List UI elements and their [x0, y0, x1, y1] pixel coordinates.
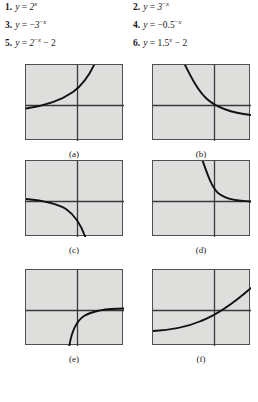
- exercise-lhs: y: [15, 38, 19, 48]
- graph-plot-c: [25, 160, 123, 236]
- exercise-number: 1.: [5, 2, 12, 12]
- graph-svg-b: [153, 65, 251, 141]
- figure-label-f: (f): [152, 354, 250, 365]
- exercise-expression: y = 2−x − 2: [15, 38, 56, 48]
- exercise-expression: y = 2x: [15, 2, 37, 12]
- exercise-lhs: y: [15, 2, 19, 12]
- exercise-equals: =: [150, 2, 155, 12]
- figure-label-a: (a): [25, 149, 123, 160]
- exercise-equals: =: [150, 20, 155, 30]
- exercise-rhs: 2x: [29, 2, 37, 12]
- graph-svg-c: [26, 161, 124, 237]
- graph-svg-a: [26, 65, 124, 141]
- graph-plot-f: [152, 269, 250, 345]
- figure-f: (f): [152, 269, 250, 365]
- exercise-number: 5.: [5, 38, 12, 48]
- exercise-item-5: 5.y = 2−x − 2: [5, 37, 56, 49]
- exercise-rhs: −3−x: [29, 20, 46, 30]
- graph-plot-d: [152, 160, 250, 236]
- exercise-rhs: 3−x: [157, 2, 168, 12]
- figure-c: (c): [25, 160, 123, 256]
- function-curve: [26, 65, 95, 109]
- exercise-lhs: y: [15, 20, 19, 30]
- graph-plot-e: [25, 269, 123, 345]
- figure-d: (d): [152, 160, 250, 256]
- figure-label-b: (b): [152, 149, 250, 160]
- exercise-expression: y = −0.5−x: [143, 20, 181, 30]
- exercise-lhs: y: [143, 20, 147, 30]
- function-curve: [184, 65, 251, 115]
- exercise-equals: =: [22, 2, 27, 12]
- exercise-item-1: 1.y = 2x: [5, 1, 37, 13]
- exercise-equals: =: [22, 20, 27, 30]
- exercise-rhs: 1.5x − 2: [157, 38, 187, 48]
- figure-label-d: (d): [152, 245, 250, 256]
- figure-b: (b): [152, 64, 250, 160]
- exercise-number: 2.: [133, 2, 140, 12]
- exercise-item-6: 6.y = 1.5x − 2: [133, 37, 187, 49]
- exercise-number: 6.: [133, 38, 140, 48]
- graph-plot-a: [25, 64, 123, 140]
- exercise-lhs: y: [143, 2, 147, 12]
- graph-plot-b: [152, 64, 250, 140]
- exercise-lhs: y: [143, 38, 147, 48]
- exercise-item-3: 3.y = −3−x: [5, 19, 46, 31]
- exercise-equals: =: [22, 38, 27, 48]
- exercise-item-2: 2.y = 3−x: [133, 1, 169, 13]
- exercise-row: 3.y = −3−x 4.y = −0.5−x: [0, 19, 258, 37]
- graph-svg-d: [153, 161, 251, 237]
- exercise-expression: y = 3−x: [143, 2, 169, 12]
- graph-svg-e: [26, 270, 124, 346]
- exercise-equals: =: [150, 38, 155, 48]
- exercise-number: 4.: [133, 20, 140, 30]
- exercise-number: 3.: [5, 20, 12, 30]
- figure-label-e: (e): [25, 354, 123, 365]
- exercise-list: 1.y = 2x 2.y = 3−x 3.y = −3−x 4.y = −0.5…: [0, 0, 258, 56]
- figure-e: (e): [25, 269, 123, 365]
- exercise-expression: y = 1.5x − 2: [143, 38, 187, 48]
- figure-a: (a): [25, 64, 123, 160]
- exercise-row: 5.y = 2−x − 2 6.y = 1.5x − 2: [0, 37, 258, 55]
- figure-label-c: (c): [25, 245, 123, 256]
- figure-grid: (a) (b) (c) (d: [0, 56, 258, 402]
- graph-svg-f: [153, 270, 251, 346]
- exercise-row: 1.y = 2x 2.y = 3−x: [0, 1, 258, 19]
- exercise-rhs: −0.5−x: [157, 20, 181, 30]
- exercise-expression: y = −3−x: [15, 20, 46, 30]
- function-curve: [202, 161, 251, 202]
- exercise-item-4: 4.y = −0.5−x: [133, 19, 181, 31]
- function-curve: [153, 288, 251, 331]
- exercise-rhs: 2−x − 2: [29, 38, 55, 48]
